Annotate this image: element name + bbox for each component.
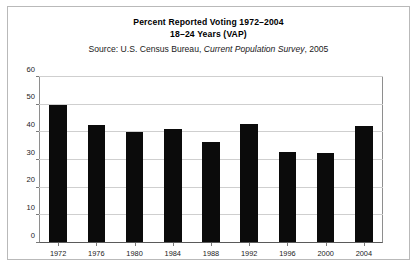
bar [49,105,67,242]
chart-title-line-1: Percent Reported Voting 1972–2004 [8,17,409,29]
y-tick-label: 50 [27,92,35,101]
bar [279,152,297,242]
x-tick-label: 2004 [356,249,372,258]
x-tick-label: 1980 [126,249,142,258]
x-tick-mark [173,243,174,246]
y-tick-mark [36,242,39,243]
x-tick-label: 1996 [279,249,295,258]
bar [88,125,106,242]
gridline [39,104,383,105]
x-tick-label: 1992 [241,249,257,258]
y-tick-mark [36,131,39,132]
chart-title-block: Percent Reported Voting 1972–2004 18–24 … [8,17,409,56]
x-tick-label: 2000 [317,249,333,258]
gridline [39,76,383,77]
bar [240,124,258,242]
x-tick-label: 1988 [203,249,219,258]
y-tick-mark [36,187,39,188]
y-tick-label: 0 [31,230,35,239]
y-tick-mark [36,104,39,105]
x-tick-label: 1976 [88,249,104,258]
plot-area: 0102030405060 19721976198019841988199219… [39,76,383,243]
bar [317,153,335,242]
x-tick-mark [326,243,327,246]
chart-figure: Percent Reported Voting 1972–2004 18–24 … [7,6,410,260]
x-tick-mark [287,243,288,246]
bar [126,132,144,242]
bar [164,129,182,242]
chart-source-note: Source: U.S. Census Bureau, Current Popu… [8,42,409,56]
y-tick-label: 10 [27,202,35,211]
chart-title-line-2: 18–24 Years (VAP) [8,29,409,41]
x-tick-label: 1984 [165,249,181,258]
x-tick-label: 1972 [50,249,66,258]
y-tick-label: 40 [27,119,35,128]
bar [355,126,373,242]
x-tick-mark [96,243,97,246]
x-tick-mark [58,243,59,246]
y-tick-mark [36,214,39,215]
x-tick-mark [364,243,365,246]
source-prefix: Source: U.S. Census Bureau, [89,44,202,54]
x-tick-mark [249,243,250,246]
y-tick-label: 60 [27,64,35,73]
bar [202,142,220,242]
x-tick-mark [135,243,136,246]
y-tick-label: 30 [27,147,35,156]
y-tick-mark [36,76,39,77]
source-suffix: , 2005 [305,44,329,54]
source-publication: Current Population Survey [204,44,305,54]
y-tick-mark [36,159,39,160]
y-tick-label: 20 [27,175,35,184]
x-tick-mark [211,243,212,246]
